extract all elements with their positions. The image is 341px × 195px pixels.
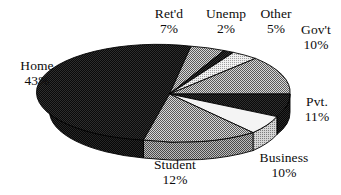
pie-label-business-name: Business bbox=[249, 150, 319, 165]
pie-label-pvt-value: 11% bbox=[296, 109, 338, 124]
pie-label-other: Other 5% bbox=[254, 6, 298, 36]
pie-top-slices bbox=[36, 44, 290, 142]
pie-label-home-value: 43% bbox=[3, 73, 71, 88]
pie-label-govt-name: Gov't bbox=[293, 22, 339, 37]
pie-label-retd-value: 7% bbox=[143, 21, 195, 36]
pie-label-govt: Gov't 10% bbox=[293, 22, 339, 52]
pie-label-retd: Ret'd 7% bbox=[143, 6, 195, 36]
pie-label-student-value: 12% bbox=[144, 172, 206, 187]
pie-label-pvt: Pvt. 11% bbox=[296, 94, 338, 124]
pie-label-student: Student 12% bbox=[144, 157, 206, 187]
pie-label-unemp-name: Unemp bbox=[198, 6, 254, 21]
pie-label-student-name: Student bbox=[144, 157, 206, 172]
pie-label-pvt-name: Pvt. bbox=[296, 94, 338, 109]
pie-label-unemp: Unemp 2% bbox=[198, 6, 254, 36]
pie-label-business-value: 10% bbox=[249, 165, 319, 180]
pie-label-unemp-value: 2% bbox=[198, 21, 254, 36]
pie-label-home: Home 43% bbox=[3, 58, 71, 88]
pie-label-retd-name: Ret'd bbox=[143, 6, 195, 21]
pie-label-home-name: Home bbox=[3, 58, 71, 73]
pie-label-other-name: Other bbox=[254, 6, 298, 21]
pie-label-govt-value: 10% bbox=[293, 37, 339, 52]
pie-label-other-value: 5% bbox=[254, 21, 298, 36]
pie-label-business: Business 10% bbox=[249, 150, 319, 180]
pie-chart: Home 43% Ret'd 7% Unemp 2% Other 5% Gov'… bbox=[0, 0, 341, 195]
